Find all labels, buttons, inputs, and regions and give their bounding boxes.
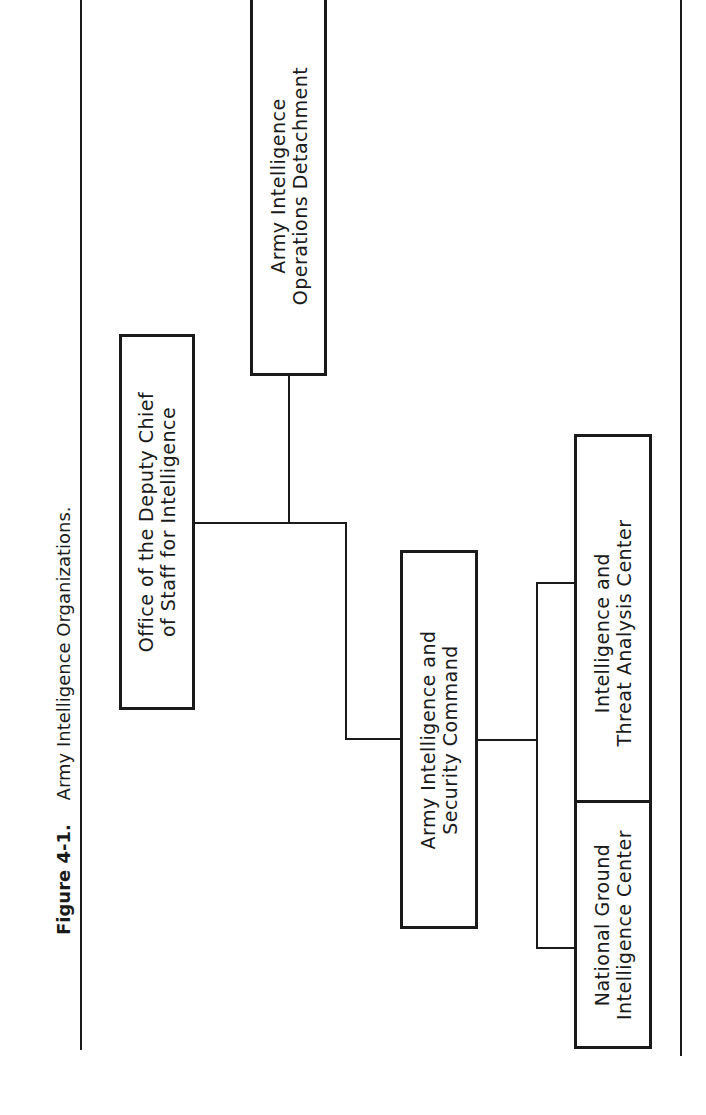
node-aiod: Army Intelligence Operations Detachment bbox=[250, 0, 327, 376]
figure-title: Army Intelligence Organizations. bbox=[53, 506, 74, 800]
node-inscom: Army Intelligence and Security Command bbox=[400, 550, 478, 929]
figure-caption: Figure 4-1. Army Intelligence Organizati… bbox=[54, 506, 74, 935]
connector-odcsi-trunk bbox=[194, 522, 346, 524]
connector-inscom-out bbox=[477, 739, 537, 741]
node-itac-label: Intelligence and Threat Analysis Center bbox=[591, 519, 635, 746]
right-rule-line bbox=[680, 0, 682, 1056]
node-aiod-label: Army Intelligence Operations Detachment bbox=[267, 67, 311, 306]
node-odcsi-label: Office of the Deputy Chief of Staff for … bbox=[135, 392, 179, 652]
connector-to-itac bbox=[536, 582, 575, 584]
connector-to-ngic bbox=[536, 947, 575, 949]
connector-trunk-down bbox=[345, 522, 347, 739]
node-itac: Intelligence and Threat Analysis Center bbox=[574, 434, 652, 831]
connector-inscom-branch bbox=[536, 582, 538, 948]
node-odcsi: Office of the Deputy Chief of Staff for … bbox=[119, 334, 195, 710]
connector-to-inscom bbox=[345, 738, 402, 740]
node-inscom-label: Army Intelligence and Security Command bbox=[417, 630, 461, 849]
connector-to-aiod bbox=[288, 375, 290, 523]
figure-number: Figure 4-1. bbox=[53, 824, 74, 935]
node-ngic: National Ground Intelligence Center bbox=[574, 800, 652, 1049]
node-ngic-label: National Ground Intelligence Center bbox=[591, 829, 635, 1019]
left-rule-line bbox=[80, 0, 82, 1050]
